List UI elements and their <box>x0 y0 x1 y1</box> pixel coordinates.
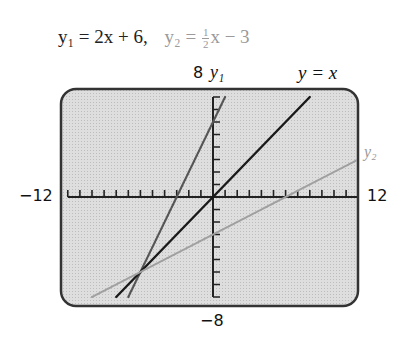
label-ymax: 8 <box>193 63 203 82</box>
label-xmax: 12 <box>367 186 387 205</box>
label-y2: y₂ <box>364 143 377 161</box>
label-xmin: −12 <box>19 186 53 205</box>
label-y1: y₁ <box>210 62 224 83</box>
label-yx: y = x <box>298 62 337 84</box>
label-ymin: −8 <box>200 311 224 330</box>
calculator-graph <box>0 0 402 337</box>
